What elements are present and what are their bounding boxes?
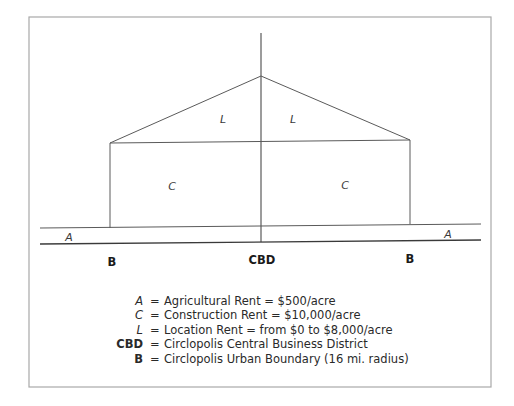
legend-equals: = — [150, 323, 160, 338]
legend-row: A=Agricultural Rent = $500/acre — [0, 294, 514, 309]
legend-equals: = — [150, 337, 160, 352]
region-label-A-right: A — [443, 228, 452, 241]
axis-label-B-left: B — [108, 255, 117, 269]
legend-equals: = — [150, 308, 160, 323]
legend-equals: = — [150, 294, 160, 309]
legend-description: Circlopolis Central Business District — [164, 337, 368, 352]
region-label-L-left: L — [220, 113, 226, 126]
legend-key: C — [135, 308, 143, 323]
legend-key: L — [137, 323, 143, 338]
legend-key: A — [135, 294, 143, 309]
axis-label-B-right: B — [406, 252, 415, 266]
construction-rent-top-line — [110, 140, 410, 143]
axis-labels: BCBDB — [108, 252, 415, 269]
legend-description: Construction Rent = $10,000/acre — [164, 308, 361, 323]
legend-description: Location Rent = from $0 to $8,000/acre — [164, 323, 393, 338]
legend-row: L=Location Rent = from $0 to $8,000/acre — [0, 323, 514, 338]
location-rent-slope-right — [261, 76, 410, 140]
legend-row: B=Circlopolis Urban Boundary (16 mi. rad… — [0, 352, 514, 367]
region-label-C-left: C — [168, 180, 176, 193]
location-rent-slope-left — [110, 76, 261, 143]
legend-key: CBD — [116, 337, 143, 352]
legend-equals: = — [150, 352, 160, 367]
legend-row: CBD=Circlopolis Central Business Distric… — [0, 337, 514, 352]
legend-description: Agricultural Rent = $500/acre — [164, 294, 336, 309]
region-label-A-left: A — [64, 231, 73, 244]
region-label-C-right: C — [341, 179, 349, 192]
legend-key: B — [134, 352, 143, 367]
region-label-L-right: L — [290, 113, 296, 126]
legend-description: Circlopolis Urban Boundary (16 mi. radiu… — [164, 352, 409, 367]
axis-label-CBD: CBD — [249, 253, 276, 267]
legend-row: C=Construction Rent = $10,000/acre — [0, 308, 514, 323]
